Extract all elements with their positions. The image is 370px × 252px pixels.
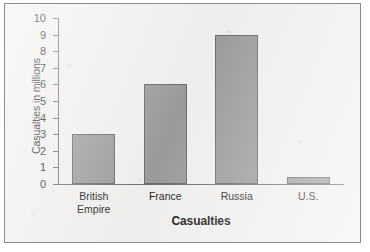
y-tick: 7	[53, 68, 59, 69]
x-tick-label-line: France	[149, 190, 182, 203]
bar	[287, 177, 330, 184]
y-tick: 1	[53, 167, 59, 168]
y-tick-label: 6	[40, 78, 46, 90]
chart-figure: Casualties in millions 012345678910 Brit…	[4, 3, 361, 243]
x-tick-label-line: British	[77, 190, 110, 203]
x-axis-line	[58, 184, 344, 185]
y-tick: 8	[53, 51, 59, 52]
plot-area: 012345678910 BritishEmpireFranceRussiaU.…	[58, 18, 344, 185]
y-tick: 2	[53, 151, 59, 152]
y-tick: 5	[53, 101, 59, 102]
x-axis-title: Casualties	[58, 214, 344, 228]
x-tick-label: BritishEmpire	[77, 190, 110, 215]
bar	[215, 35, 258, 184]
y-tick-label: 8	[40, 45, 46, 57]
y-tick: 6	[53, 84, 59, 85]
y-tick: 10	[53, 18, 59, 19]
x-tick-label: France	[149, 190, 182, 203]
y-tick-label: 9	[40, 29, 46, 41]
y-tick-label: 3	[40, 128, 46, 140]
y-tick: 4	[53, 118, 59, 119]
y-tick-label: 1	[40, 161, 46, 173]
bar	[144, 84, 187, 184]
y-tick-label: 0	[40, 178, 46, 190]
y-tick: 9	[53, 35, 59, 36]
y-tick: 0	[53, 184, 59, 185]
x-tick-label-line: U.S.	[298, 190, 318, 203]
y-tick-label: 2	[40, 145, 46, 157]
y-tick-label: 4	[40, 112, 46, 124]
bar	[72, 134, 115, 184]
x-tick-label: Russia	[221, 190, 253, 203]
y-tick-label: 7	[40, 62, 46, 74]
x-tick-label: U.S.	[298, 190, 318, 203]
y-tick-label: 10	[34, 12, 46, 24]
y-tick: 3	[53, 134, 59, 135]
x-tick-label-line: Russia	[221, 190, 253, 203]
y-tick-label: 5	[40, 95, 46, 107]
